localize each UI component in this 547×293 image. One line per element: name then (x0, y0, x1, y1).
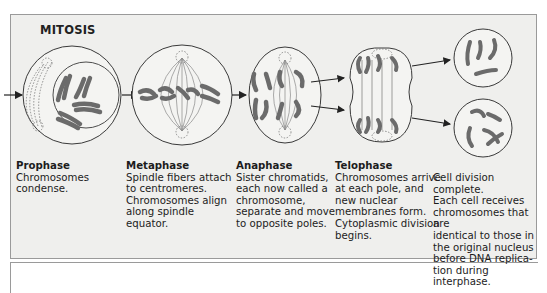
stage-caption-telophase: Telophase Chromosomes arrive at each pol… (335, 160, 441, 241)
anaphase-cell-icon (249, 47, 321, 143)
stage-name: Anaphase (236, 160, 335, 172)
stage-name: Metaphase (126, 160, 231, 172)
stage-caption-prophase: Prophase Chromosomes condense. (16, 160, 89, 195)
stage-description: Sister chromatids, each now called a chr… (236, 172, 335, 230)
stage-description: Chromosomes arrive at each pole, and new… (335, 172, 441, 242)
daughter-cell-bottom-icon (454, 99, 512, 157)
stage-caption-anaphase: Anaphase Sister chromatids, each now cal… (236, 160, 335, 230)
stage-name: Prophase (16, 160, 89, 172)
stage-caption-division-complete: Cell division complete. Each cell receiv… (433, 172, 547, 288)
daughter-cell-top-icon (454, 29, 512, 87)
stage-caption-metaphase: Metaphase Spindle fibers attach to centr… (126, 160, 231, 230)
metaphase-cell-icon (132, 45, 232, 145)
stage-description: Cell division complete. Each cell receiv… (433, 172, 547, 288)
prophase-cell-icon (23, 46, 121, 144)
stage-description: Chromosomes condense. (16, 172, 89, 195)
telophase-cell-icon (350, 48, 412, 142)
arrow-icon (412, 60, 450, 124)
stage-description: Spindle fibers attach to centromeres. Ch… (126, 172, 231, 230)
stage-name: Telophase (335, 160, 441, 172)
